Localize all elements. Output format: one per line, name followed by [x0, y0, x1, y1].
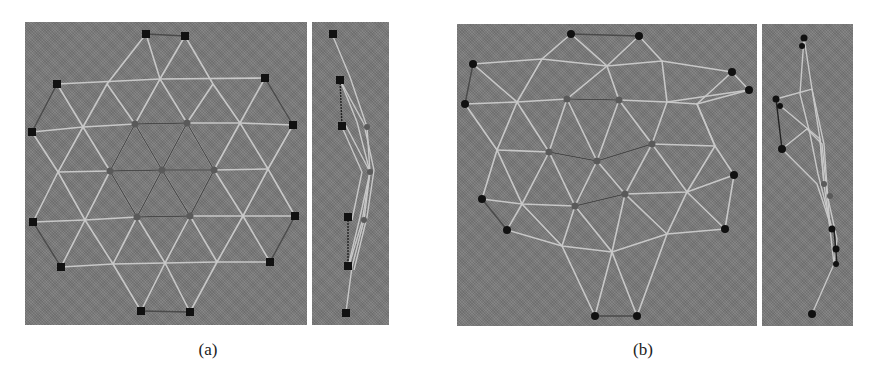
- panel-a-side-view: [312, 22, 389, 325]
- panel-b-front-view: [457, 24, 757, 326]
- caption-b: (b): [613, 340, 673, 360]
- caption-a: (a): [178, 340, 238, 360]
- mesh-a-front: [25, 22, 307, 325]
- mesh-b-front: [457, 24, 757, 326]
- mesh-b-side: [762, 24, 853, 326]
- panel-a-front-view: [25, 22, 307, 325]
- panel-b-side-view: [762, 24, 853, 326]
- mesh-a-side: [312, 22, 389, 325]
